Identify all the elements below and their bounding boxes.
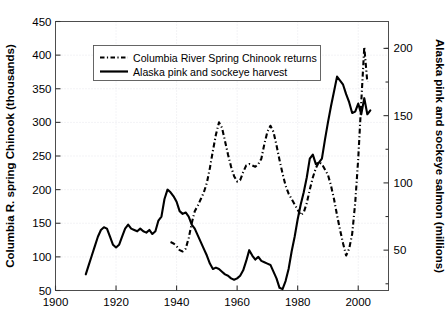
y-axis-right-tick-label: 200 bbox=[394, 42, 413, 54]
legend: Columbia River Spring Chinook returns Al… bbox=[94, 46, 321, 81]
legend-label-chinook: Columbia River Spring Chinook returns bbox=[133, 52, 317, 64]
y-axis-right-tick-label: 100 bbox=[394, 177, 413, 189]
legend-label-alaska: Alaska pink and sockeye harvest bbox=[133, 66, 287, 78]
x-axis-tick-label: 2000 bbox=[345, 296, 371, 308]
y-axis-left-tick-label: 400 bbox=[32, 49, 51, 61]
x-axis-tick-label: 1980 bbox=[285, 296, 311, 308]
y-axis-left-tick-label: 200 bbox=[32, 184, 51, 196]
chart-figure: 50100150200250300350400450 50100150200 1… bbox=[0, 0, 447, 320]
x-axis-tick-label: 1920 bbox=[103, 296, 129, 308]
y-axis-left-title: Columbia R. spring Chinook (thousands) bbox=[4, 44, 16, 268]
y-axis-left-tick-label: 350 bbox=[32, 83, 51, 95]
y-axis-right-title: Alaska pink and sockeye salmon (millions… bbox=[434, 39, 446, 273]
x-axis-tick-label: 1960 bbox=[224, 296, 250, 308]
salmon-timeseries-chart: 50100150200250300350400450 50100150200 1… bbox=[0, 0, 447, 320]
y-axis-left-tick-label: 300 bbox=[32, 116, 51, 128]
y-axis-right-tick-label: 150 bbox=[394, 110, 413, 122]
y-axis-left-tick-label: 450 bbox=[32, 16, 51, 28]
y-axis-left-tick-label: 100 bbox=[32, 251, 51, 263]
y-axis-left-tick-label: 150 bbox=[32, 217, 51, 229]
y-axis-left-tick-label: 250 bbox=[32, 150, 51, 162]
y-axis-right-tick-label: 50 bbox=[394, 244, 407, 256]
x-axis-tick-label: 1900 bbox=[43, 296, 69, 308]
x-axis-tick-label: 1940 bbox=[164, 296, 190, 308]
